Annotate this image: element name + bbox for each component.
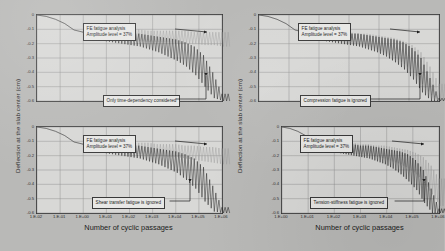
y-tick-label: -0.5 <box>265 195 279 200</box>
y-axis-label-right: Deflection at the slab center (cm) <box>236 22 243 230</box>
annotation-line-2: Amplitude level = 37% <box>87 144 133 150</box>
x-tick-label: 1.E+01 <box>300 214 313 219</box>
x-axis-label-bottom-right: Number of cyclic passages <box>281 223 438 232</box>
y-tick-label: 0 <box>20 12 34 17</box>
x-tick-label: 1.E+04 <box>379 214 392 219</box>
x-tick-label: 1.E+00 <box>274 214 287 219</box>
y-tick-label: -0.2 <box>242 40 256 45</box>
y-tick-label: -0.5 <box>20 195 34 200</box>
annotation-reference-label: Compression fatigue is ignored <box>300 95 371 107</box>
annotation-fe-fatigue: FE fatigue analysisAmplitude level = 37% <box>83 135 136 153</box>
y-tick-label: 0 <box>265 124 279 129</box>
annotation-reference-label: Tension-stiffness fatigue is ignored <box>310 197 388 209</box>
y-tick-label: 0 <box>20 124 34 129</box>
x-tick-label: 1.E+03 <box>145 214 158 219</box>
x-tick-label: 1.E-02 <box>30 214 42 219</box>
y-tick-label: -0.6 <box>242 98 256 103</box>
y-tick-label: -0.1 <box>242 26 256 31</box>
annotation-line-2: Amplitude level = 37% <box>302 32 348 38</box>
x-tick-label: 1.E+06 <box>431 214 444 219</box>
y-tick-label: -0.5 <box>242 83 256 88</box>
annotation-fe-fatigue: FE fatigue analysisAmplitude level = 37% <box>298 23 351 41</box>
y-tick-label: -0.4 <box>20 181 34 186</box>
y-tick-label: -0.5 <box>20 83 34 88</box>
annotation-line-1: FE fatigue analysis <box>87 26 133 32</box>
y-tick-label: -0.2 <box>20 152 34 157</box>
y-tick-label: 0 <box>242 12 256 17</box>
y-tick-label: -0.1 <box>20 138 34 143</box>
x-tick-label: 1.E+06 <box>214 214 227 219</box>
y-tick-label: -0.3 <box>20 167 34 172</box>
x-tick-label: 1.E-01 <box>53 214 65 219</box>
annotation-reference-label: Only time-dependency considered <box>103 95 180 107</box>
x-tick-label: 1.E+05 <box>191 214 204 219</box>
y-tick-label: -0.4 <box>20 69 34 74</box>
x-tick-label: 1.E+03 <box>353 214 366 219</box>
y-tick-label: -0.4 <box>265 181 279 186</box>
y-tick-label: -0.2 <box>20 40 34 45</box>
x-tick-label: 1.E+05 <box>405 214 418 219</box>
annotation-line-1: FE fatigue analysis <box>302 26 348 32</box>
annotation-line-1: FE fatigue analysis <box>304 138 350 144</box>
y-tick-label: -0.6 <box>20 98 34 103</box>
annotation-line-2: Amplitude level = 37% <box>87 32 133 38</box>
annotation-fe-fatigue: FE fatigue analysisAmplitude level = 37% <box>83 23 136 41</box>
x-tick-label: 1.E+02 <box>122 214 135 219</box>
y-tick-label: -0.1 <box>20 26 34 31</box>
x-tick-label: 1.E+01 <box>99 214 112 219</box>
y-tick-label: -0.3 <box>20 55 34 60</box>
y-tick-label: -0.3 <box>265 167 279 172</box>
annotation-fe-fatigue: FE fatigue analysisAmplitude level = 37% <box>300 135 353 153</box>
annotation-line-2: Amplitude level = 37% <box>304 144 350 150</box>
y-tick-label: -0.4 <box>242 69 256 74</box>
annotation-reference-label: Shear transfer fatigue is ignored <box>92 197 165 209</box>
y-tick-label: -0.3 <box>242 55 256 60</box>
x-tick-label: 1.E+00 <box>76 214 89 219</box>
x-tick-label: 1.E+02 <box>327 214 340 219</box>
y-tick-label: -0.1 <box>265 138 279 143</box>
y-tick-label: -0.2 <box>265 152 279 157</box>
annotation-line-1: FE fatigue analysis <box>87 138 133 144</box>
x-axis-label-bottom-left: Number of cyclic passages <box>36 223 221 232</box>
x-tick-label: 1.E+04 <box>168 214 181 219</box>
